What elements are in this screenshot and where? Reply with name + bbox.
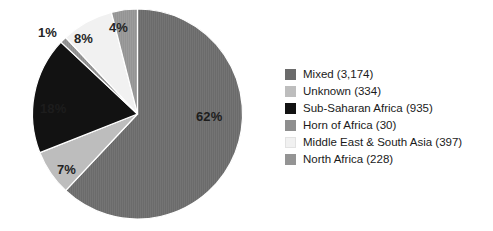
legend-swatch-mixed — [285, 69, 296, 80]
legend-item[interactable]: Unknown (334) — [285, 83, 490, 100]
legend-item[interactable]: Sub-Saharan Africa (935) — [285, 100, 490, 117]
legend-swatch-sub-saharan-africa — [285, 103, 296, 114]
slice-label-sub-saharan-africa: 18% — [40, 102, 66, 115]
slice-label-unknown: 7% — [57, 163, 76, 176]
legend-item-label: Mixed (3,174) — [303, 69, 373, 81]
slice-label-mixed: 62% — [196, 110, 222, 123]
slice-label-horn-of-africa: 1% — [38, 26, 57, 39]
legend-swatch-horn-of-africa — [285, 120, 296, 131]
legend-item[interactable]: Horn of Africa (30) — [285, 117, 490, 134]
legend-item[interactable]: Mixed (3,174) — [285, 66, 490, 83]
slice-label-north-africa: 4% — [109, 21, 128, 34]
pie-chart-area: 62% 7% 18% 1% 8% 4% — [0, 0, 275, 231]
legend-swatch-north-africa — [285, 154, 296, 165]
legend-swatch-middle-east-south-asia — [285, 137, 296, 148]
legend-item-label: Sub-Saharan Africa (935) — [303, 103, 433, 115]
legend-item[interactable]: Middle East & South Asia (397) — [285, 134, 490, 151]
legend-item-label: Unknown (334) — [303, 86, 381, 98]
legend-item-label: Horn of Africa (30) — [303, 120, 396, 132]
legend-item-label: Middle East & South Asia (397) — [303, 137, 462, 149]
legend-item[interactable]: North Africa (228) — [285, 151, 490, 168]
pie-chart-figure: 62% 7% 18% 1% 8% 4% Mixed (3,174)Unknown… — [0, 0, 493, 231]
legend-swatch-unknown — [285, 86, 296, 97]
legend-item-label: North Africa (228) — [303, 154, 393, 166]
slice-label-middle-east-south-asia: 8% — [74, 32, 93, 45]
chart-legend: Mixed (3,174)Unknown (334)Sub-Saharan Af… — [285, 66, 490, 168]
